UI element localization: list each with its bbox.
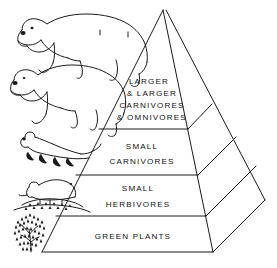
tier-0-line-1: LARGER (129, 77, 169, 86)
tier-0-line-2: & LARGER (127, 89, 177, 98)
shrub-icon (14, 213, 46, 252)
tier-1-line-2: CARNIVORES (109, 157, 174, 166)
tier-1-line-1: SMALL (126, 142, 158, 151)
ecological-pyramid-figure: LARGER & LARGER CARNIVORES & OMNIVORES S… (0, 0, 277, 268)
polar-bear-upper-icon (18, 14, 148, 87)
pyramid-shape (42, 10, 265, 252)
tier-0-line-3: CARNIVORES (119, 101, 184, 110)
tier-2-line-2: HERBIVORES (106, 200, 171, 209)
tier-label-green-plants: GREEN PLANTS (95, 232, 171, 241)
tier-3-line-1: GREEN PLANTS (95, 232, 171, 241)
tier-0-line-4: & OMNIVORES (117, 113, 187, 122)
tier-2-line-1: SMALL (122, 184, 154, 193)
